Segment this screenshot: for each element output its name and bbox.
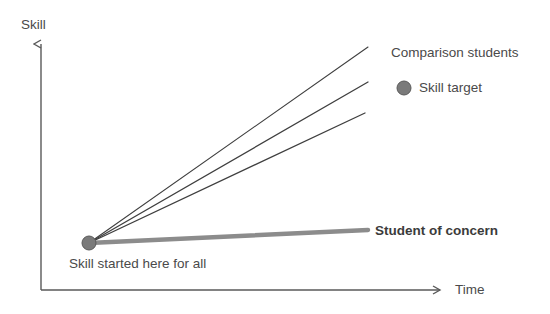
comparison-student-line-2 (89, 82, 368, 243)
annotation-student-of-concern: Student of concern (375, 224, 498, 238)
skill-start-dot (82, 236, 96, 250)
legend-label-comparison-students: Comparison students (391, 46, 519, 60)
skill-target-dot-icon (397, 81, 411, 95)
skill-growth-chart: Skill Time Skill started here for all Co… (0, 0, 550, 314)
comparison-student-line-1 (89, 47, 368, 243)
student-of-concern-line (89, 230, 368, 243)
skill-start-caption: Skill started here for all (69, 257, 206, 271)
legend-label-skill-target: Skill target (419, 81, 482, 95)
comparison-student-line-3 (89, 113, 365, 243)
x-axis-label: Time (455, 283, 485, 297)
y-axis-label: Skill (21, 18, 46, 32)
